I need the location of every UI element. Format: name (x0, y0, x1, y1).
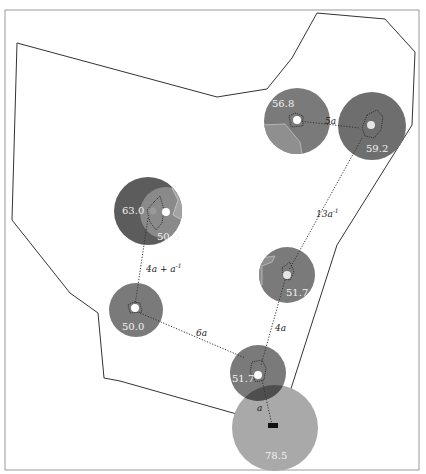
edge-label-n6-n7: 6a (196, 328, 207, 338)
edge-label-n5-n7: 4a (274, 323, 286, 333)
value-n6: 50.0 (122, 321, 144, 332)
edge-label-n7-n8: a (257, 403, 262, 413)
diagram-canvas: 56.8 59.2 63.0 50.6 51.7 50.0 51.7 78.5 … (0, 0, 426, 474)
edge-label-n2-n5: 13a-1 (316, 207, 339, 219)
edge-label-n3-n6: 4a + a-1 (145, 262, 182, 274)
value-n5: 51.7 (286, 287, 308, 298)
center-dots (131, 116, 375, 379)
edge-n6-n7 (140, 313, 245, 358)
value-n7: 51.7 (232, 373, 254, 384)
value-n1: 56.8 (272, 98, 294, 109)
value-n8: 78.5 (265, 450, 287, 461)
value-n2: 59.2 (366, 143, 388, 154)
edge-label-n1-n2: 5a (325, 116, 336, 126)
value-n3: 63.0 (122, 205, 144, 216)
diagram-frame (5, 10, 419, 470)
value-n4: 50.6 (157, 231, 179, 242)
anchor-marker (268, 423, 278, 428)
region-outline (12, 13, 415, 426)
cluster-outlines (128, 110, 383, 382)
